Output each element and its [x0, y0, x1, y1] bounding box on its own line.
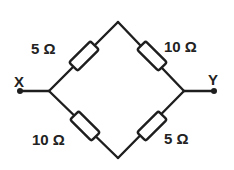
resistor-bottom-left-label: 10 Ω — [32, 132, 65, 147]
terminal-x-label: X — [14, 74, 24, 89]
resistor-bottom-right-label: 5 Ω — [164, 131, 189, 146]
resistor-top-right — [137, 41, 167, 71]
terminal-y-label: Y — [208, 72, 218, 87]
resistor-bottom-right — [137, 111, 167, 141]
terminal-y-dot — [211, 88, 217, 94]
resistor-top-left-label: 5 Ω — [31, 41, 56, 56]
resistor-top-right-label: 10 Ω — [164, 39, 197, 54]
resistor-bottom-left — [70, 111, 100, 141]
resistor-top-left — [69, 41, 99, 71]
